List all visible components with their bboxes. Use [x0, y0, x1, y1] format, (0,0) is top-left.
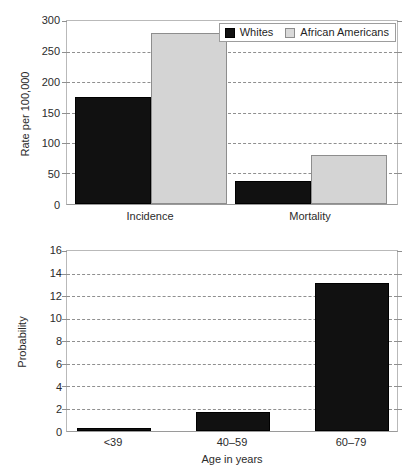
y-tick-mark: [397, 364, 402, 365]
y-tick-mark: [397, 52, 402, 53]
y-axis-title-bottom: Probability: [16, 292, 28, 392]
legend-label-whites: Whites: [240, 27, 274, 38]
y-tick-mark: [62, 274, 67, 275]
gridline: [67, 274, 397, 275]
y-tick-mark: [397, 409, 402, 410]
y-tick-mark: [62, 21, 67, 22]
y-tick-mark: [62, 296, 67, 297]
y-tick-mark: [62, 386, 67, 387]
y-tick-mark: [62, 143, 67, 144]
y-tick-label: 150: [42, 107, 60, 118]
y-tick-mark: [397, 341, 402, 342]
figure-incidence-mortality: Rate per 100,000 300 250 200 150 100 50 …: [0, 0, 419, 238]
bar-african-americans-incidence[interactable]: [151, 33, 227, 204]
y-tick-label: 250: [42, 45, 60, 56]
y-tick-mark: [62, 113, 67, 114]
x-tick-label-40-59: 40–59: [217, 436, 248, 448]
bar-african-americans-mortality[interactable]: [311, 155, 387, 204]
bar-whites-incidence[interactable]: [75, 97, 151, 204]
y-tick-mark: [397, 21, 402, 22]
legend-swatch-whites: [225, 28, 235, 38]
legend-item-whites[interactable]: Whites: [225, 27, 274, 38]
bar-probability-60-79[interactable]: [315, 283, 389, 432]
y-tick-label: 50: [48, 169, 60, 180]
y-axis-tick-labels-bottom: 16 14 12 10 8 6 4 2 0: [28, 250, 62, 432]
bar-probability-under39[interactable]: [77, 428, 151, 431]
x-tick-label-incidence: Incidence: [126, 210, 173, 222]
y-tick-mark: [397, 173, 402, 174]
y-tick-mark: [397, 274, 402, 275]
y-tick-mark: [397, 82, 402, 83]
bar-probability-40-59[interactable]: [196, 412, 270, 431]
y-tick-mark: [397, 319, 402, 320]
y-tick-label: 0: [56, 427, 62, 438]
y-tick-mark: [62, 409, 67, 410]
gridline: [67, 52, 397, 53]
y-tick-mark: [397, 143, 402, 144]
y-tick-mark: [62, 82, 67, 83]
y-axis-tick-labels-top: 300 250 200 150 100 50 0: [26, 20, 60, 205]
plot-area-bottom: [66, 250, 398, 432]
y-tick-label: 12: [50, 290, 62, 301]
x-axis-title-bottom: Age in years: [66, 453, 398, 465]
y-tick-label: 16: [50, 245, 62, 256]
y-tick-label: 100: [42, 138, 60, 149]
y-tick-label: 0: [54, 200, 60, 211]
y-tick-mark: [62, 52, 67, 53]
legend-top: Whites African Americans: [219, 23, 396, 42]
y-tick-label: 14: [50, 267, 62, 278]
y-tick-mark: [397, 251, 402, 252]
y-tick-mark: [62, 319, 67, 320]
legend-item-african-americans[interactable]: African Americans: [285, 27, 389, 38]
y-tick-mark: [62, 173, 67, 174]
y-tick-mark: [397, 386, 402, 387]
y-tick-mark: [62, 251, 67, 252]
y-tick-label: 10: [50, 313, 62, 324]
x-tick-label-under39: <39: [104, 436, 123, 448]
plot-area-top: Whites African Americans: [66, 20, 398, 205]
x-tick-label-mortality: Mortality: [289, 210, 331, 222]
y-tick-mark: [62, 364, 67, 365]
x-tick-label-60-79: 60–79: [336, 436, 367, 448]
plot-frame-top: Whites African Americans: [66, 20, 398, 205]
bar-whites-mortality[interactable]: [235, 181, 311, 204]
legend-label-african-americans: African Americans: [300, 27, 389, 38]
gridline: [67, 82, 397, 83]
y-tick-mark: [397, 113, 402, 114]
plot-frame-bottom: [66, 250, 398, 432]
figure-probability-by-age: Probability 16 14 12 10 8 6 4 2 0: [0, 238, 419, 476]
y-tick-label: 200: [42, 76, 60, 87]
legend-swatch-african-americans: [285, 28, 295, 38]
y-tick-mark: [62, 341, 67, 342]
y-tick-label: 300: [42, 15, 60, 26]
y-tick-mark: [397, 296, 402, 297]
